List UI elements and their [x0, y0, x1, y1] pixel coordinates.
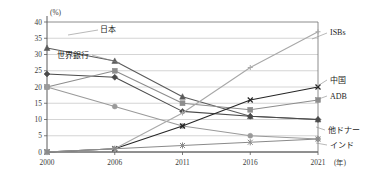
y-axis-unit-label: (%): [50, 8, 62, 17]
y-tick-label: 10: [35, 115, 43, 124]
x-axis-unit-label: (年): [334, 158, 346, 167]
x-tick-label: 2011: [175, 158, 190, 167]
series-label-世界銀行: 世界銀行: [57, 50, 89, 60]
x-axis-tick-labels: 20002006201120162021(年): [40, 152, 347, 167]
x-tick-label: 2000: [40, 158, 55, 167]
series-ADB: [45, 68, 321, 112]
x-tick-label: 2006: [107, 158, 122, 167]
y-tick-label: 20: [35, 83, 43, 92]
y-tick-label: 35: [35, 34, 43, 43]
series-line: [47, 32, 318, 152]
series-label-leader: [68, 30, 98, 35]
data-point-marker: [248, 107, 253, 112]
series-label-ADB: ADB: [330, 92, 347, 101]
data-point-marker: [44, 71, 50, 77]
data-point-marker: [112, 74, 118, 80]
line-chart: 0510152025303540(%)20002006201120162021(…: [0, 0, 371, 182]
chart-container: 0510152025303540(%)20002006201120162021(…: [0, 0, 371, 182]
data-point-marker: [316, 29, 321, 34]
data-point-marker: [44, 45, 50, 51]
series-label-インド: インド: [330, 141, 354, 150]
series-label-他ドナー: 他ドナー: [328, 125, 360, 135]
gridlines: [47, 22, 318, 152]
y-tick-label: 5: [38, 131, 42, 140]
y-tick-label: 15: [35, 99, 43, 108]
x-tick-label: 2021: [311, 158, 326, 167]
series-label-leader: [92, 55, 120, 63]
series-label-ISBs: ISBs: [330, 28, 346, 37]
data-point-marker: [112, 104, 117, 109]
series-label-中国: 中国: [330, 75, 346, 85]
y-tick-label: 40: [35, 18, 43, 27]
series-label-leader: [316, 127, 325, 130]
data-point-marker: [180, 101, 185, 106]
data-point-marker: [112, 68, 117, 73]
data-point-marker: [45, 85, 50, 90]
y-tick-label: 25: [35, 66, 43, 75]
y-tick-label: 0: [38, 148, 42, 157]
x-tick-label: 2016: [243, 158, 258, 167]
y-tick-label: 30: [35, 50, 43, 59]
data-point-marker: [248, 133, 253, 138]
data-point-marker: [180, 94, 186, 100]
series-label-日本: 日本: [100, 24, 116, 34]
